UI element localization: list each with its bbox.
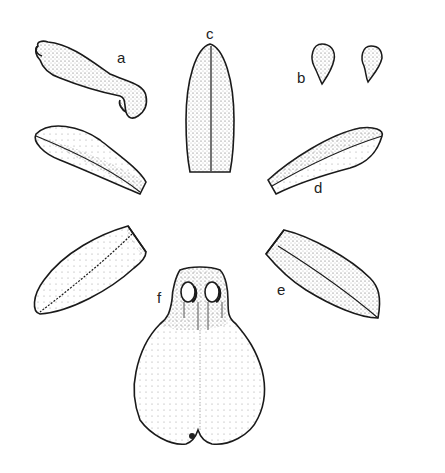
label-b: b bbox=[297, 70, 305, 85]
part-b-pollinia bbox=[312, 44, 382, 84]
part-f-lip bbox=[134, 267, 265, 444]
part-e-sepal-lateral-right bbox=[266, 230, 380, 318]
label-c: c bbox=[206, 26, 214, 41]
part-d-petal-right bbox=[268, 127, 382, 194]
part-petal-left bbox=[35, 126, 146, 194]
label-f: f bbox=[157, 290, 161, 305]
illustration-drawing bbox=[0, 0, 445, 473]
label-e: e bbox=[277, 282, 285, 297]
part-sepal-lateral-left bbox=[34, 226, 146, 314]
botanical-illustration: a b c d e f bbox=[0, 0, 445, 473]
part-a-column bbox=[36, 41, 147, 118]
part-c-dorsal-sepal bbox=[186, 44, 234, 172]
label-d: d bbox=[314, 180, 322, 195]
label-a: a bbox=[117, 50, 125, 65]
